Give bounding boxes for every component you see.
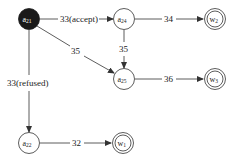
edge-a21-a25: 35: [37, 26, 114, 73]
edge-a25-w3: 36: [135, 74, 203, 84]
edge-label: 33(accept): [60, 14, 98, 24]
node-w3: w3: [205, 69, 226, 90]
edge-a21-a22: 33(refused): [7, 30, 48, 132]
edge-label: 35: [71, 46, 81, 56]
edge-line: [37, 26, 70, 46]
node-a21: a21: [19, 9, 40, 30]
node-a25: a25: [114, 69, 135, 90]
edge-a21-a24: 33(accept): [40, 14, 113, 24]
edge-label: 33(refused): [7, 78, 48, 88]
edge-a22-w1: 32: [40, 138, 111, 148]
edge-label: 32: [72, 138, 81, 148]
edge-a24-w2: 34: [135, 14, 203, 24]
edge-a24-a25: 35: [119, 30, 129, 68]
node-a22: a22: [19, 133, 40, 154]
diagram-svg: 33(accept) 35 33(refused) 34 35: [0, 0, 241, 161]
node-w2: w2: [205, 9, 226, 30]
node-w1: w1: [113, 133, 134, 154]
edge-label: 36: [164, 74, 174, 84]
node-a24: a24: [114, 9, 135, 30]
state-diagram: 33(accept) 35 33(refused) 34 35: [0, 0, 241, 161]
edge-label: 34: [164, 14, 174, 24]
edge-label: 35: [119, 44, 129, 54]
edge-line: [84, 56, 114, 73]
